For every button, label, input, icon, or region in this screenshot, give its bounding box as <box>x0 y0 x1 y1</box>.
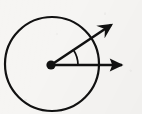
angle-diagram-svg: Angle formed by two rays from the center… <box>0 0 142 114</box>
diagonal-ray <box>51 25 111 65</box>
angle-arc <box>73 50 78 65</box>
angle-diagram-figure: Angle formed by two rays from the center… <box>0 0 142 114</box>
vertex-dot <box>46 60 55 69</box>
